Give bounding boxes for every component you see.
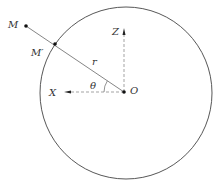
theta-arc [104,81,107,92]
label-Z: Z [111,26,120,37]
sphere-circle [40,7,212,179]
label-theta: θ [90,80,96,91]
label-M: M [7,19,19,30]
z-arrow-icon [123,28,126,35]
x-arrow-icon [64,91,71,94]
diagram: M M′ r θ O X Z [0,0,213,183]
label-M-prime: M′ [30,47,44,58]
point-M-prime [53,42,57,46]
label-X: X [48,87,57,98]
point-O [122,90,126,94]
label-r: r [92,56,98,67]
point-M [24,24,28,28]
label-O: O [130,85,138,96]
